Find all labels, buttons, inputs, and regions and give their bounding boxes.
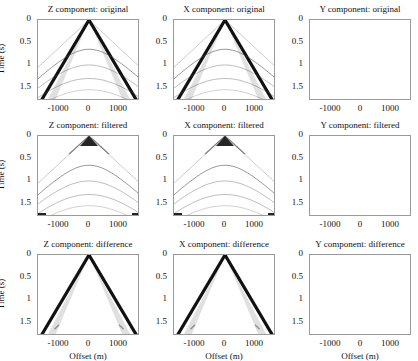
plot-area [309, 135, 411, 216]
y-tick-label: 1.5 [141, 81, 167, 91]
panel-title: Z component: difference [17, 239, 159, 249]
y-axis-label: Time (s) [0, 264, 6, 324]
x-axis-label: Offset (m) [38, 351, 138, 361]
y-tick-label: 1.5 [5, 316, 31, 326]
y-tick-label: 0.5 [141, 36, 167, 46]
plot-area [173, 135, 275, 216]
panel-title: X component: original [153, 4, 295, 14]
x-tick-label: 1000 [98, 219, 138, 229]
y-tick-label: 1.5 [277, 316, 303, 326]
y-tick-label: 1 [277, 58, 303, 68]
y-tick-label: 0 [141, 248, 167, 258]
y-tick-label: 1 [141, 174, 167, 184]
y-axis-label: Time (s) [0, 29, 6, 89]
plot-area [309, 19, 411, 100]
y-tick-label: 0.5 [141, 271, 167, 281]
panel-title: X component: difference [153, 239, 295, 249]
y-tick-label: 1 [277, 293, 303, 303]
y-tick-label: 0 [5, 129, 31, 139]
y-tick-label: 0.5 [5, 271, 31, 281]
y-tick-label: 0.5 [277, 152, 303, 162]
y-tick-label: 0 [277, 13, 303, 23]
panel-title: Z component: filtered [17, 120, 159, 130]
plot-area [37, 135, 139, 216]
plot-area [173, 254, 275, 335]
y-tick-label: 1.5 [5, 81, 31, 91]
plot-area [37, 254, 139, 335]
y-tick-label: 1 [141, 58, 167, 68]
panel-title: Y component: difference [289, 239, 418, 249]
x-tick-label: 1000 [370, 103, 410, 113]
panel-title: X component: filtered [153, 120, 295, 130]
y-tick-label: 0.5 [141, 152, 167, 162]
y-tick-label: 0 [5, 13, 31, 23]
x-tick-label: 1000 [98, 103, 138, 113]
y-tick-label: 1.5 [141, 316, 167, 326]
x-tick-label: 1000 [370, 338, 410, 348]
y-tick-label: 0 [277, 248, 303, 258]
x-tick-label: 1000 [98, 338, 138, 348]
y-tick-label: 1 [277, 174, 303, 184]
x-axis-label: Offset (m) [174, 351, 274, 361]
y-tick-label: 0 [141, 129, 167, 139]
y-tick-label: 0.5 [277, 36, 303, 46]
y-tick-label: 1.5 [277, 81, 303, 91]
y-tick-label: 1.5 [277, 197, 303, 207]
x-tick-label: 1000 [234, 338, 274, 348]
plot-area [173, 19, 275, 100]
x-tick-label: 1000 [370, 219, 410, 229]
y-tick-label: 0 [141, 13, 167, 23]
y-tick-label: 1.5 [5, 197, 31, 207]
y-tick-label: 1 [5, 174, 31, 184]
y-tick-label: 0.5 [277, 271, 303, 281]
y-tick-label: 1 [5, 58, 31, 68]
y-tick-label: 1 [5, 293, 31, 303]
plot-area [309, 254, 411, 335]
y-tick-label: 0.5 [5, 152, 31, 162]
plot-area [37, 19, 139, 100]
y-tick-label: 0.5 [5, 36, 31, 46]
x-tick-label: 1000 [234, 219, 274, 229]
panel-title: Y component: original [289, 4, 418, 14]
y-tick-label: 1.5 [141, 197, 167, 207]
y-tick-label: 1 [141, 293, 167, 303]
y-tick-label: 0 [5, 248, 31, 258]
panel-title: Z component: original [17, 4, 159, 14]
panel-title: Y component: filtered [289, 120, 418, 130]
y-tick-label: 0 [277, 129, 303, 139]
y-axis-label: Time (s) [0, 145, 6, 205]
x-axis-label: Offset (m) [310, 351, 410, 361]
x-tick-label: 1000 [234, 103, 274, 113]
